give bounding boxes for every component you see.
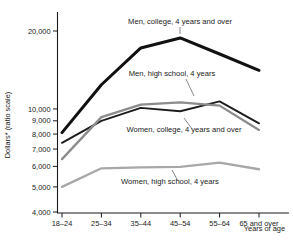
y-axis-title: Dollars* (ratio scale)	[3, 92, 12, 159]
y-tick-label: 8,000	[32, 130, 51, 139]
x-tick-label: 18–24	[52, 219, 73, 228]
x-tick-label: 45–54	[170, 219, 191, 228]
series-annotation-label-2: Women, college, 4 years and over	[126, 125, 242, 134]
earnings-by-age-chart: 20,00010,0009,0008,0007,0006,0005,0004,0…	[0, 0, 293, 240]
y-tick-label: 7,000	[32, 145, 51, 154]
y-tick-label: 4,000	[32, 208, 51, 217]
y-tick-label: 5,000	[32, 183, 51, 192]
x-tick-label: 35–44	[131, 219, 152, 228]
series-line-0	[62, 38, 259, 133]
annotation-leader-1	[186, 79, 194, 96]
y-tick-label: 10,000	[28, 105, 51, 114]
series-line-1	[62, 101, 259, 142]
series-annotation-label-3: Women, high school, 4 years	[121, 177, 219, 186]
x-axis-title: Years of age	[244, 224, 285, 233]
x-tick-label: 25–34	[91, 219, 112, 228]
series-annotation-label-1: Men, high school, 4 years	[129, 69, 216, 78]
y-tick-label: 9,000	[32, 116, 51, 125]
y-tick-label: 20,000	[28, 27, 51, 36]
x-tick-label: 55–64	[209, 219, 230, 228]
y-tick-label: 6,000	[32, 162, 51, 171]
data-series-group	[62, 38, 259, 187]
chart-canvas: 20,00010,0009,0008,0007,0006,0005,0004,0…	[0, 0, 293, 240]
y-axis-ticks: 20,00010,0009,0008,0007,0006,0005,0004,0…	[28, 27, 58, 217]
series-annotation-label-0: Men, college, 4 years and over	[128, 17, 232, 26]
